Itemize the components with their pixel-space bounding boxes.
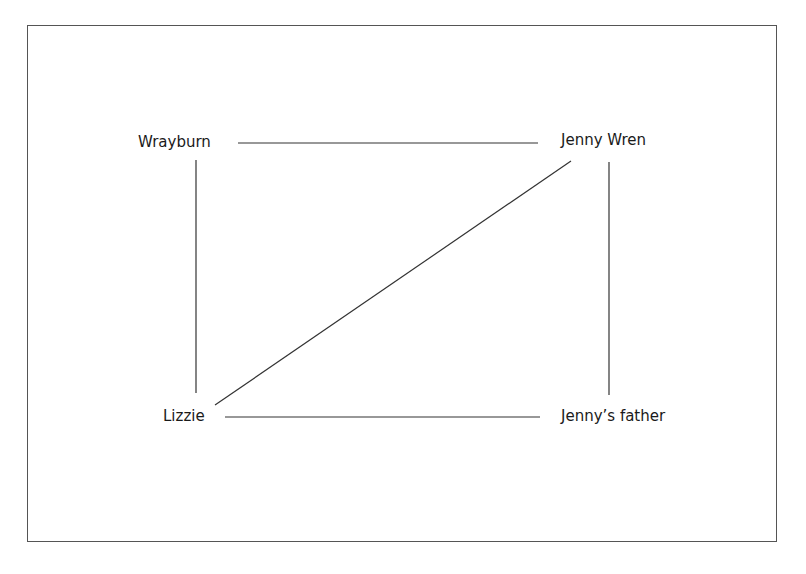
node-jenny-wren: Jenny Wren (561, 133, 646, 148)
node-wrayburn: Wrayburn (138, 135, 211, 150)
node-jennys-father: Jenny’s father (561, 409, 665, 424)
node-lizzie: Lizzie (163, 409, 205, 424)
edge-lizzie-jenny-wren (215, 161, 571, 405)
diagram-edges (0, 0, 806, 574)
